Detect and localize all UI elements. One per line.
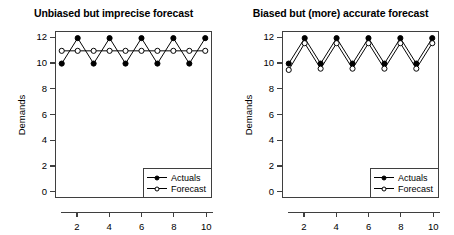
open-circle-marker [318,66,323,71]
panel-title: Unbiased but imprecise forecast [0,7,227,19]
filled-circle-marker [187,61,192,66]
open-circle-marker [350,66,355,71]
x-tick-mark [76,212,77,217]
open-circle-marker [302,41,307,46]
open-circle-marker [139,48,144,53]
x-tick-label: 10 [423,221,443,232]
filled-circle-marker [203,36,208,41]
legend-label-forecast: Forecast [394,184,433,194]
y-tick-label: 12 [263,30,274,44]
open-circle-marker [203,48,208,53]
legend: Actuals Forecast [143,168,212,198]
y-tick-label: 8 [42,82,47,96]
y-tick-label: 0 [269,185,274,199]
x-tick-mark [400,212,401,217]
legend-item-forecast: Forecast [374,183,433,194]
y-tick-label: 6 [42,108,47,122]
filled-circle-marker [123,61,128,66]
filled-circle-marker [350,61,355,66]
open-circle-marker [334,41,339,46]
filled-circle-marker [286,61,291,66]
y-tick-label: 2 [42,159,47,173]
x-tick-label: 8 [391,221,411,232]
open-circle-marker [123,48,128,53]
open-circle-marker [75,48,80,53]
x-tick-mark [109,212,110,217]
filled-circle-marker [382,61,387,66]
filled-circle-marker [414,61,419,66]
x-tick-mark [303,212,304,217]
legend-label-forecast: Forecast [167,184,206,194]
open-circle-marker [286,67,291,72]
open-circle-marker [155,48,160,53]
x-axis-line [61,212,213,213]
legend-item-forecast: Forecast [147,183,206,194]
filled-circle-marker [302,36,307,41]
x-tick-label: 8 [164,221,184,232]
legend-label-actuals: Actuals [394,173,428,183]
open-circle-marker [430,41,435,46]
panel-unbiased-imprecise: Unbiased but imprecise forecast Demands … [0,0,227,235]
open-circle-marker [171,48,176,53]
x-tick-label: 4 [99,221,119,232]
legend-item-actuals: Actuals [147,172,206,183]
y-tick-label: 2 [269,159,274,173]
open-circle-marker [91,48,96,53]
legend-item-actuals: Actuals [374,172,433,183]
filled-circle-marker [59,61,64,66]
y-axis: 024681012 [227,31,282,198]
x-tick-mark [141,212,142,217]
open-circle-icon [374,183,394,194]
filled-circle-marker [75,36,80,41]
open-circle-marker [187,48,192,53]
open-circle-marker [398,41,403,46]
x-axis: 246810 [282,198,439,232]
y-tick-label: 10 [36,56,47,70]
filled-circle-marker [155,61,160,66]
panel-title: Biased but (more) accurate forecast [227,7,454,19]
open-circle-marker [366,41,371,46]
x-tick-mark [206,212,207,217]
y-axis: 024681012 [0,31,55,198]
x-tick-label: 2 [67,221,87,232]
open-circle-marker [414,66,419,71]
filled-circle-marker [318,61,323,66]
plot-area: Actuals Forecast [282,31,439,198]
filled-circle-marker [91,61,96,66]
legend: Actuals Forecast [370,168,439,198]
legend-label-actuals: Actuals [167,173,201,183]
filled-circle-marker [107,36,112,41]
y-tick-label: 4 [42,133,47,147]
filled-circle-marker [139,36,144,41]
open-circle-marker [59,48,64,53]
filled-circle-icon [147,172,167,183]
x-tick-label: 4 [326,221,346,232]
x-axis-line [288,212,440,213]
x-tick-mark [336,212,337,217]
x-tick-label: 10 [196,221,216,232]
open-circle-icon [147,183,167,194]
y-tick-label: 12 [36,30,47,44]
open-circle-marker [107,48,112,53]
filled-circle-marker [334,36,339,41]
open-circle-marker [382,66,387,71]
filled-circle-marker [398,36,403,41]
x-tick-label: 6 [132,221,152,232]
filled-circle-marker [366,36,371,41]
plot-area: Actuals Forecast [55,31,212,198]
y-tick-label: 4 [269,133,274,147]
x-tick-mark [368,212,369,217]
y-tick-label: 6 [269,108,274,122]
forecast-comparison-figure: Unbiased but imprecise forecast Demands … [0,0,454,235]
x-tick-label: 6 [359,221,379,232]
y-tick-label: 0 [42,185,47,199]
panel-biased-accurate: Biased but (more) accurate forecast Dema… [227,0,454,235]
filled-circle-icon [374,172,394,183]
x-tick-mark [433,212,434,217]
x-tick-label: 2 [294,221,314,232]
x-axis: 246810 [55,198,212,232]
filled-circle-marker [430,36,435,41]
y-tick-label: 8 [269,82,274,96]
y-tick-label: 10 [263,56,274,70]
filled-circle-marker [171,36,176,41]
